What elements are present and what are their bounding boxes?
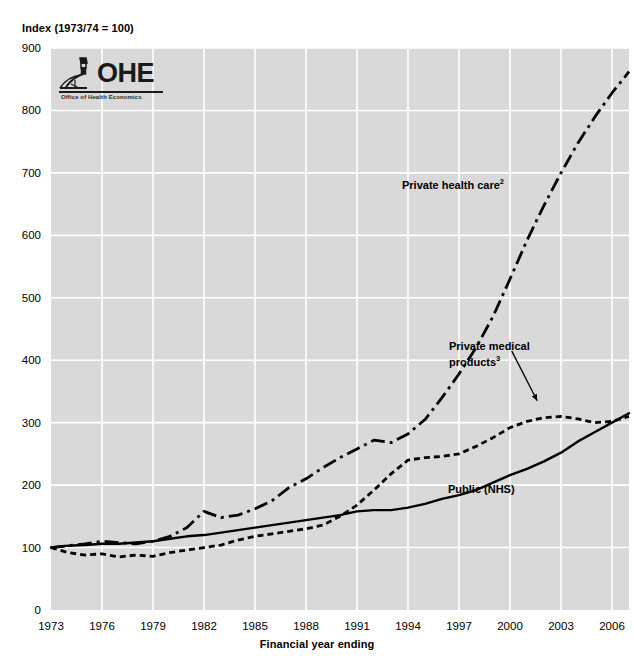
series-footnote-marker: 3 — [496, 354, 500, 363]
y-tick-label: 700 — [22, 167, 41, 179]
x-axis-title: Financial year ending — [0, 638, 634, 650]
logo-underline — [59, 91, 163, 93]
series-footnote-marker: 2 — [500, 177, 504, 186]
x-tick-label: 1997 — [446, 620, 472, 632]
x-tick-label: 2003 — [548, 620, 574, 632]
x-tick-label: 1991 — [344, 620, 370, 632]
x-tick-label: 1988 — [293, 620, 319, 632]
series-label-private-health-care: Private health care2 — [402, 177, 504, 191]
microscope-icon — [57, 56, 99, 96]
ohe-wordmark: OHE — [97, 60, 154, 87]
series-label-private-medical-products: Private medical — [449, 340, 530, 352]
x-tick-label: 1994 — [395, 620, 421, 632]
y-tick-label: 600 — [22, 229, 41, 241]
y-tick-label: 0 — [35, 604, 41, 616]
y-tick-label: 100 — [22, 542, 41, 554]
x-tick-label: 2006 — [599, 620, 625, 632]
y-tick-label: 900 — [22, 42, 41, 54]
plot-background — [51, 48, 629, 610]
x-tick-label: 2000 — [497, 620, 523, 632]
y-axis-tick-labels: 0100200300400500600700800900 — [22, 42, 41, 616]
series-label-public-nhs: Public (NHS) — [448, 483, 515, 495]
y-tick-label: 500 — [22, 292, 41, 304]
y-tick-label: 200 — [22, 479, 41, 491]
y-tick-label: 800 — [22, 104, 41, 116]
x-tick-label: 1976 — [89, 620, 115, 632]
y-tick-label: 400 — [22, 354, 41, 366]
y-tick-label: 300 — [22, 417, 41, 429]
chart-figure: Index (1973/74 = 100) 010020030040050060… — [0, 0, 634, 659]
x-tick-label: 1973 — [38, 620, 64, 632]
x-tick-label: 1979 — [140, 620, 166, 632]
ohe-subtitle: Office of Health Economics — [61, 94, 142, 100]
series-label-private-medical-products: products3 — [449, 354, 500, 368]
x-tick-label: 1985 — [242, 620, 268, 632]
ohe-logo: OHE Office of Health Economics — [57, 56, 165, 106]
x-axis-tick-labels: 1973197619791982198519881991199419972000… — [38, 620, 625, 632]
x-tick-label: 1982 — [191, 620, 217, 632]
